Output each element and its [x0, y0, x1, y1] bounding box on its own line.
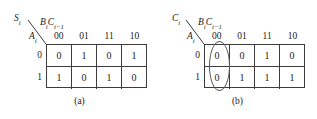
kmap-cell[interactable]: 1	[97, 67, 122, 89]
row-variable-label-b: Ai	[187, 32, 195, 44]
kmap-cell[interactable]: 1	[72, 45, 97, 67]
column-header: 00	[46, 30, 71, 43]
kmap-row: 0 1 1 1	[205, 67, 304, 89]
row-variable-label-a: Ai	[29, 32, 37, 44]
column-headers-b: 00 01 11 10	[204, 30, 305, 43]
kmap-cell[interactable]: 1	[47, 67, 72, 89]
kmap-cell[interactable]: 0	[280, 45, 304, 67]
column-variable-label-b: BiCi−1	[198, 18, 222, 30]
row-headers-b: 0 1	[186, 44, 200, 88]
output-variable-label-b: Ci	[172, 14, 180, 26]
kmap-cell[interactable]: 1	[230, 67, 255, 89]
column-header: 10	[280, 30, 305, 43]
column-header: 01	[229, 30, 254, 43]
row-headers-a: 0 1	[28, 44, 42, 88]
column-headers-a: 00 01 11 10	[46, 30, 147, 43]
row-header: 1	[186, 66, 200, 88]
column-header: 10	[122, 30, 147, 43]
kmap-row: 1 0 1 0	[47, 67, 146, 89]
column-variable-label-a: BiCi−1	[40, 18, 64, 30]
figure-caption-a: (a)	[0, 96, 159, 106]
kmap-grid-b: 0 0 1 0 0 1 1 1	[204, 44, 305, 88]
figure-caption-b: (b)	[158, 96, 317, 106]
row-header: 0	[186, 44, 200, 66]
kmap-cell[interactable]: 0	[122, 67, 146, 89]
kmap-cell[interactable]: 0	[205, 67, 230, 89]
column-header: 00	[204, 30, 229, 43]
kmap-cell[interactable]: 0	[72, 67, 97, 89]
column-header: 11	[97, 30, 122, 43]
output-variable-label-a: Si	[14, 14, 21, 26]
kmap-cell[interactable]: 0	[47, 45, 72, 67]
column-header: 11	[255, 30, 280, 43]
kmap-grid-a: 0 1 0 1 1 0 1 0	[46, 44, 147, 88]
row-header: 1	[28, 66, 42, 88]
kmap-row: 0 0 1 0	[205, 45, 304, 67]
kmap-cell[interactable]: 1	[122, 45, 146, 67]
row-header: 0	[28, 44, 42, 66]
kmap-cell[interactable]: 0	[97, 45, 122, 67]
kmap-cell[interactable]: 1	[280, 67, 304, 89]
karnaugh-map-figure-b: Ci BiCi−1 Ai 00 01 11 10 0 1 0 0 1 0 0 1…	[158, 0, 317, 119]
kmap-row: 0 1 0 1	[47, 45, 146, 67]
kmap-cell[interactable]: 1	[255, 45, 280, 67]
kmap-cell[interactable]: 0	[230, 45, 255, 67]
kmap-cell[interactable]: 1	[255, 67, 280, 89]
kmap-cell[interactable]: 0	[205, 45, 230, 67]
karnaugh-map-figure-a: Si BiCi−1 Ai 00 01 11 10 0 1 0 1 0 1 1 0…	[0, 0, 159, 119]
column-header: 01	[71, 30, 96, 43]
